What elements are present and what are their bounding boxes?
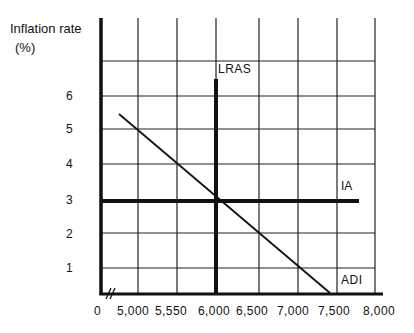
ia-label: IA <box>341 179 352 193</box>
x-tick: 8,000 <box>363 304 395 318</box>
y-tick: 2 <box>66 227 73 241</box>
adi-label: ADI <box>341 273 363 287</box>
x-tick: 6,000 <box>198 304 230 318</box>
y-tick: 4 <box>66 157 73 171</box>
x-tick: 7,000 <box>277 304 309 318</box>
x-tick-labels: 0 5,000 5,550 6,000 6,500 7,000 7,500 8,… <box>94 304 395 318</box>
grid-horizontal <box>101 61 375 268</box>
x-tick: 5,550 <box>155 304 187 318</box>
y-tick: 6 <box>66 89 73 103</box>
lras-label: LRAS <box>218 62 251 76</box>
y-axis-title-line2: (%) <box>15 40 35 55</box>
x-tick: 0 <box>94 304 101 318</box>
x-tick: 5,000 <box>117 304 149 318</box>
y-tick-labels: 6 5 4 3 2 1 <box>66 89 73 275</box>
y-tick: 1 <box>66 261 73 275</box>
chart-canvas: LRAS IA ADI Inflation rate (%) 6 5 4 3 2… <box>0 0 414 333</box>
grid-vertical <box>138 18 375 294</box>
y-tick: 3 <box>66 193 73 207</box>
y-tick: 5 <box>66 122 73 136</box>
x-tick: 7,500 <box>318 304 350 318</box>
y-axis-title-line1: Inflation rate <box>10 21 82 36</box>
x-tick: 6,500 <box>236 304 268 318</box>
